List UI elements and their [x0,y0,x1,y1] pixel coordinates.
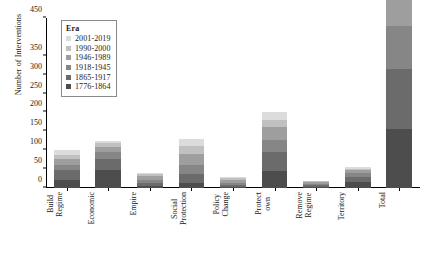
legend-item[interactable]: 1776-1864 [66,82,111,92]
bar-stack[interactable] [220,177,246,188]
y-tick-label: 50 [34,156,46,165]
y-tick-label: 150 [30,118,46,127]
bar-segment [95,159,121,171]
bar-segment [179,139,205,147]
y-axis-title: Number of Interventions [14,0,23,125]
legend-item[interactable]: 2001-2019 [66,34,111,44]
legend-label: 1918-1945 [75,63,111,72]
bar-segment [179,154,205,165]
bar-stack[interactable] [345,167,371,188]
legend-item[interactable]: 1865-1917 [66,72,111,82]
x-tick-label: Policy Change [213,192,253,216]
legend-swatch [66,75,71,80]
legend-label: 2001-2019 [75,34,111,43]
y-tick-label: 200 [30,99,46,108]
bar-segment [386,69,412,129]
legend-swatch [66,36,71,41]
bar-segment [262,152,288,171]
y-tick-label: 450 [30,5,46,14]
y-tick-label: 250 [30,80,46,89]
x-tick-label: Economic [88,192,128,224]
x-tick-mark [275,188,276,191]
legend-swatch [66,84,71,89]
bar-segment [386,0,412,26]
bar-segment [262,171,288,188]
bar-segment [179,165,205,173]
legend-swatch [66,55,71,60]
bar-stack[interactable] [54,150,80,188]
x-tick-mark [233,188,234,191]
bar-segment [54,180,80,188]
bar-stack[interactable] [386,0,412,188]
bar-segment [386,129,412,188]
bar-stack[interactable] [262,112,288,188]
stacked-bar-chart: Number of Interventions 0501001502002503… [0,0,426,257]
x-tick-label: Remove Regime [296,192,336,219]
bar-segment [262,127,288,140]
legend-swatch [66,46,71,51]
legend-item[interactable]: 1990-2000 [66,44,111,54]
bar-segment [95,170,121,188]
bar-stack[interactable] [303,181,329,189]
legend-label: 1865-1917 [75,73,111,82]
legend-swatch [66,65,71,70]
bar-stack[interactable] [95,141,121,188]
x-tick-label: Build Regime [47,192,87,217]
x-tick-label: Social Protection [171,192,211,225]
y-tick-label: 100 [30,137,46,146]
bar-stack[interactable] [179,139,205,188]
x-tick-mark [358,188,359,191]
legend-item[interactable]: 1946-1989 [66,53,111,63]
x-tick-mark [316,188,317,191]
bar-segment [179,146,205,154]
bar-segment [54,170,80,180]
x-tick-mark [108,188,109,191]
bar-segment [262,112,288,119]
y-tick-label: 300 [30,61,46,70]
x-tick-label: Protect own [255,192,295,215]
x-tick-mark [150,188,151,191]
legend-item[interactable]: 1918-1945 [66,63,111,73]
y-tick-label: 0 [38,175,46,184]
y-tick-label: 350 [30,42,46,51]
bar-segment [262,120,288,127]
x-tick-label: Total [379,192,419,208]
bar-stack[interactable] [137,173,163,188]
x-tick-mark [67,188,68,191]
bar-segment [179,174,205,183]
x-tick-label: Empire [130,192,170,216]
legend-label: 1946-1989 [75,53,111,62]
legend-items: 2001-20191990-20001946-19891918-19451865… [66,34,111,92]
x-tick-label: Territory [338,192,378,220]
bar-segment [386,26,412,69]
legend-label: 1776-1864 [75,82,111,91]
legend: Era 2001-20191990-20001946-19891918-1945… [61,20,117,97]
bar-segment [262,140,288,152]
legend-title: Era [66,24,111,33]
x-tick-mark [191,188,192,191]
x-tick-mark [399,188,400,191]
legend-label: 1990-2000 [75,44,111,53]
